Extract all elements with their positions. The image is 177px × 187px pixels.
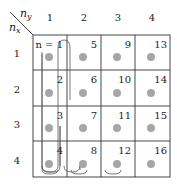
snake-order-diagram: ny nx 1 2 3 4 1 2 3 4 (0, 0, 177, 187)
column-header: 3 (115, 12, 121, 23)
cell-label: 10 (118, 74, 131, 85)
row-header: 1 (14, 48, 20, 59)
cell-label: 7 (91, 110, 97, 121)
cell-label: 13 (154, 39, 167, 50)
cell-label: 9 (125, 39, 131, 50)
cell-label: 11 (118, 110, 131, 121)
ny-axis-label: ny (20, 7, 32, 21)
cell-label: 4 (57, 145, 63, 156)
cell-label: n = 1 (35, 39, 63, 50)
row-header: 2 (14, 84, 20, 95)
cell-label: 16 (154, 145, 167, 156)
column-header: 1 (47, 12, 53, 23)
row-header: 4 (14, 155, 20, 166)
cell-label: 6 (91, 74, 97, 85)
cell-label: 8 (91, 145, 97, 156)
nx-axis-label: nx (9, 21, 21, 35)
row-header: 3 (14, 119, 20, 130)
column-header: 4 (149, 12, 155, 23)
cell-label: 15 (154, 110, 167, 121)
cell-label: 2 (57, 74, 63, 85)
cell-label: 5 (91, 39, 97, 50)
cell-label: 14 (154, 74, 167, 85)
cell-label: 12 (118, 145, 131, 156)
column-header: 2 (81, 12, 87, 23)
cell-label: 3 (57, 110, 63, 121)
